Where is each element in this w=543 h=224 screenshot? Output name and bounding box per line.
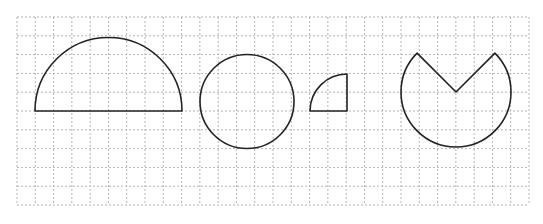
circle-shape <box>200 55 294 149</box>
grid-canvas <box>0 0 543 224</box>
pacman-sector-shape <box>401 53 511 147</box>
